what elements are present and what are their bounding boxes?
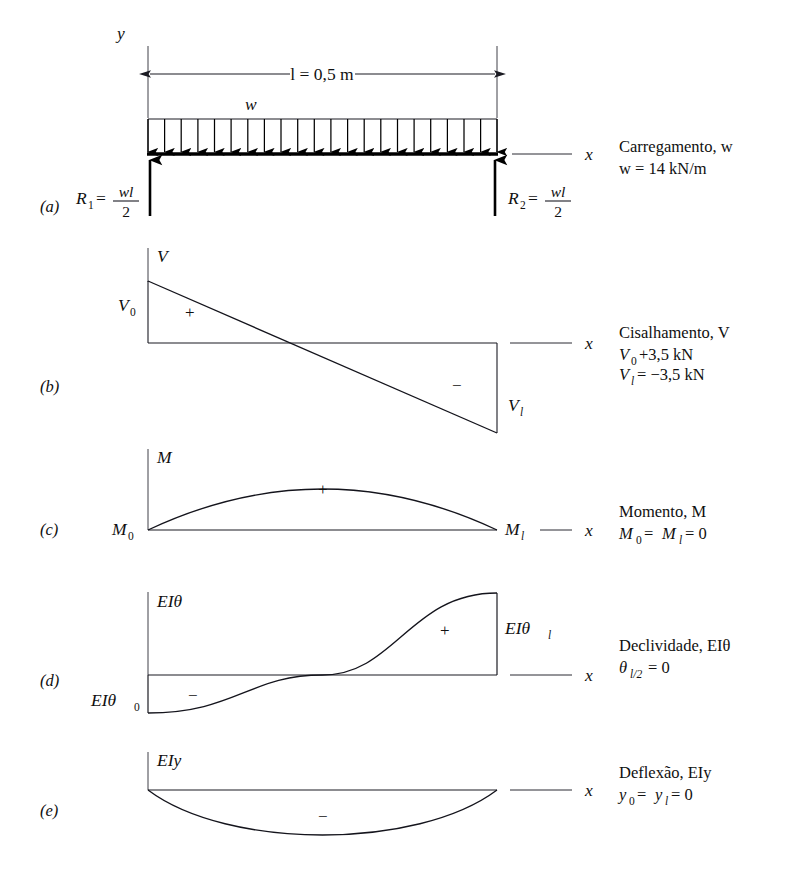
shear-v0-symbol: V [619, 345, 631, 364]
axis-label-x-d: x [584, 665, 593, 685]
moment-m0-symbol: M [618, 524, 634, 543]
slope-curve-label: EIθ [156, 591, 183, 611]
moment-end-symbol: M [504, 519, 521, 539]
shear-sign-negative: − [452, 376, 462, 395]
moment-start-subscript: 0 [128, 530, 134, 542]
panel-label-a: (a) [40, 197, 59, 216]
panel-label-d: (d) [40, 671, 59, 690]
load-symbol-w: w [245, 94, 257, 114]
load-arrow-group [148, 119, 497, 152]
shear-curve [148, 281, 497, 433]
moment-curve-label: M [156, 447, 173, 467]
reaction-left-symbol: R [75, 188, 87, 208]
reaction-right-equals: = [528, 188, 538, 208]
shear-start-label: V 0 [118, 295, 136, 318]
shear-sign-positive: + [185, 303, 195, 322]
moment-equals-1: = [644, 524, 653, 543]
shear-end-subscript: l [520, 406, 523, 418]
slope-end-symbol: EIθ [504, 618, 531, 638]
annotation-title-d: Declividade, EIθ [619, 636, 731, 655]
deflection-y0-subscript: 0 [629, 795, 635, 807]
reaction-label-right: R 2 = wl 2 [507, 183, 571, 220]
annotation-title-a: Carregamento, w [619, 137, 733, 156]
slope-theta-value: = 0 [648, 658, 670, 677]
moment-equals-zero: = 0 [685, 524, 707, 543]
slope-sign-positive: + [440, 621, 450, 640]
axis-label-x-e: x [584, 780, 593, 800]
reaction-right-subscript: 2 [520, 199, 526, 211]
dimension-label: l = 0,5 m [290, 64, 354, 84]
axis-label-x-c: x [584, 520, 593, 540]
slope-start-symbol: EIθ [90, 690, 117, 710]
deflection-equals-1: = [637, 785, 646, 804]
axis-label-x-a: x [584, 144, 593, 164]
slope-start-label: EIθ 0 [90, 690, 140, 713]
annotation-title-b: Cisalhamento, V [619, 323, 730, 342]
moment-sign-positive: + [318, 480, 328, 499]
shear-end-label: V l [508, 395, 523, 418]
moment-start-symbol: M [111, 519, 128, 539]
slope-end-label: EIθ l [504, 618, 551, 641]
slope-theta-subscript: l/2 [630, 668, 642, 680]
deflection-curve-label: EIy [156, 750, 182, 770]
reaction-left-numerator: wl [119, 183, 134, 200]
panel-loading: y l = 0,5 m w [40, 23, 733, 220]
shear-vl-subscript: l [631, 375, 634, 387]
annotation-line-b-1: V 0 +3,5 kN [619, 345, 693, 367]
reaction-left-denominator: 2 [122, 203, 130, 220]
panel-label-c: (c) [40, 520, 58, 539]
moment-ml-subscript: l [679, 534, 682, 546]
annotation-line-a-1: w = 14 kN/m [619, 159, 707, 178]
axis-label-x-b: x [584, 333, 593, 353]
moment-start-label: M 0 [111, 519, 134, 542]
annotation-title-e: Deflexão, EIy [619, 763, 712, 782]
annotation-line-e-1: y 0 = y l = 0 [617, 785, 693, 807]
reaction-right-denominator: 2 [554, 203, 562, 220]
shear-curve-label: V [157, 246, 170, 266]
reaction-right-symbol: R [507, 188, 519, 208]
annotation-line-c-1: M 0 = M l = 0 [618, 524, 707, 546]
slope-curve [148, 593, 497, 713]
deflection-y0-symbol: y [617, 785, 627, 804]
shear-vl-symbol: V [619, 365, 631, 384]
slope-theta-symbol: θ [619, 658, 627, 677]
reaction-left-equals: = [96, 188, 106, 208]
reaction-left-subscript: 1 [88, 199, 94, 211]
shear-vl-value: = −3,5 kN [637, 365, 705, 384]
panel-label-b: (b) [40, 377, 59, 396]
panel-slope: EIθ x EIθ 0 EIθ l − + (d) Declividade, E… [40, 591, 731, 713]
deflection-yl-subscript: l [665, 795, 668, 807]
deflection-yl-symbol: y [653, 785, 663, 804]
shear-v0-value: +3,5 kN [639, 345, 693, 364]
beam-diagram-figure: y l = 0,5 m w [0, 0, 798, 878]
reaction-label-left: R 1 = wl 2 [75, 183, 139, 220]
panel-shear: V x V 0 V l + − (b) Cisalhamento, V V [40, 246, 730, 433]
moment-end-label: M l [504, 519, 524, 542]
slope-start-subscript: 0 [134, 701, 140, 713]
axis-label-y: y [115, 23, 125, 43]
annotation-line-d-1: θ l/2 = 0 [619, 658, 670, 680]
slope-sign-negative: − [188, 686, 198, 705]
reaction-right-numerator: wl [551, 183, 566, 200]
slope-end-subscript: l [548, 629, 551, 641]
panel-label-e: (e) [40, 801, 58, 820]
annotation-line-b-2: V l = −3,5 kN [619, 365, 705, 387]
deflection-equals-zero: = 0 [671, 785, 693, 804]
shear-start-subscript: 0 [130, 306, 136, 318]
panel-moment: M x M 0 M l + (c) Momento, M M 0 = M l [40, 447, 707, 546]
deflection-sign-negative: − [318, 807, 328, 826]
panel-deflection: EIy x − (e) Deflexão, EIy y 0 = y l = 0 [40, 750, 712, 835]
moment-m0-subscript: 0 [636, 534, 642, 546]
moment-end-subscript: l [521, 530, 524, 542]
moment-ml-symbol: M [661, 524, 677, 543]
annotation-title-c: Momento, M [619, 502, 706, 521]
